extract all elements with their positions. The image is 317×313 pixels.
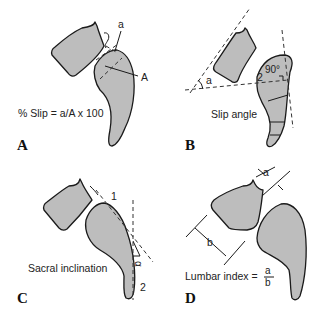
panel-letter-c: C [17, 290, 28, 306]
panel-letter-b: B [185, 137, 195, 153]
label-b-2: 2 [257, 71, 263, 83]
fraction-denominator: b [265, 277, 271, 288]
label-d-b: b [207, 236, 213, 248]
label-c-alpha: α [133, 261, 144, 267]
l5-vertebra-b [214, 28, 256, 82]
l5-vertebra-c [44, 179, 92, 230]
label-a-small: a [118, 18, 124, 30]
caption-c: Sacral inclination [28, 262, 108, 274]
panel-letter-a: A [17, 137, 28, 153]
panel-c: 1 α 2 Sacral inclination C [17, 179, 153, 306]
label-b-angle: a [206, 74, 212, 86]
panel-b: a 90° 2 Slip angle B [185, 8, 293, 153]
caption-d: Lumbar index = [185, 270, 258, 282]
l5-vertebra-d [211, 180, 263, 230]
label-c-2: 2 [140, 281, 146, 293]
panel-d: a b Lumbar index = a b D [185, 166, 306, 306]
sacrum-c [86, 203, 135, 299]
panel-letter-d: D [185, 290, 196, 306]
fraction-numerator: a [265, 265, 271, 276]
label-b-90: 90° [265, 64, 280, 75]
spondylolisthesis-diagram: a A % Slip = a/A x 100 A a 90° 2 Slip an… [0, 0, 317, 313]
caption-b: Slip angle [211, 108, 257, 120]
sacrum-a [94, 50, 134, 146]
label-c-1: 1 [111, 190, 117, 202]
caption-a: % Slip = a/A x 100 [18, 107, 104, 119]
label-d-a: a [263, 166, 269, 178]
label-a-large: A [141, 71, 148, 83]
panel-a: a A % Slip = a/A x 100 A [17, 18, 148, 153]
